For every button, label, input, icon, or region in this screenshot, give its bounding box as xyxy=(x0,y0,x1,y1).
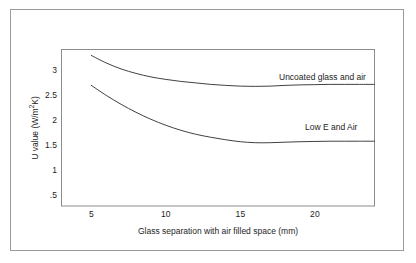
x-axis-tick-label: 20 xyxy=(310,209,320,219)
y-axis-tick-label: 3 xyxy=(40,65,57,75)
y-axis-tick-label: 1 xyxy=(40,165,57,175)
y-axis-title-prefix: U value (W/m xyxy=(30,108,40,159)
series-label-uncoated-glass-and-air: Uncoated glass and air xyxy=(279,72,366,82)
x-axis-tick-label: 10 xyxy=(161,209,171,219)
y-axis-tick-label: 2 xyxy=(40,115,57,125)
y-axis-title-exponent: 2 xyxy=(28,105,35,109)
x-axis-title: Glass separation with air filled space (… xyxy=(138,226,298,236)
series-label-low-e-and-air: Low E and Air xyxy=(305,122,357,132)
y-axis-tick-label: .5 xyxy=(40,190,57,200)
y-axis-tick-label: 2.5 xyxy=(40,90,57,100)
y-axis-title-suffix: K) xyxy=(30,96,40,105)
x-axis-tick-label: 15 xyxy=(236,209,246,219)
x-axis-tick-label: 5 xyxy=(89,209,94,219)
chart-figure: 32.521.51.5 5101520 Glass separation wit… xyxy=(0,0,416,263)
y-axis-tick-label: 1.5 xyxy=(40,140,57,150)
y-axis-title: U value (W/m2K) xyxy=(30,96,40,160)
